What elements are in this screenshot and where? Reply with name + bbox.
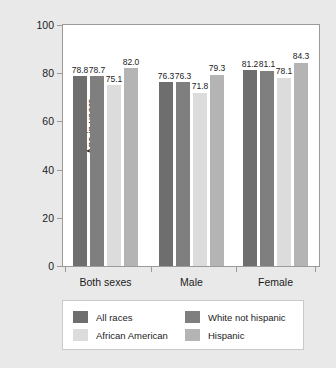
bar-slot: 78.7 (90, 25, 104, 266)
bar-slot: 78.1 (277, 25, 291, 266)
x-tick-mark (315, 266, 316, 272)
bar-value-label: 81.1 (259, 60, 276, 69)
bar-slot: 79.3 (210, 25, 224, 266)
x-tick-mark (65, 266, 66, 272)
bar-value-label: 76.3 (175, 72, 192, 81)
bar-slot: 82.0 (124, 25, 138, 266)
y-tick-label: 100 (36, 19, 54, 31)
bar-slot: 76.3 (159, 25, 173, 266)
bar-slot: 75.1 (107, 25, 121, 266)
legend-entry[interactable]: White not hispanic (185, 308, 297, 326)
legend-label: White not hispanic (208, 312, 286, 323)
x-category-label: Female (258, 276, 293, 288)
bar[interactable] (107, 85, 121, 266)
x-tick-mark (236, 266, 237, 272)
bar-value-label: 82.0 (123, 58, 140, 67)
bar[interactable] (210, 75, 224, 266)
bar[interactable] (176, 82, 190, 266)
bar[interactable] (193, 93, 207, 266)
legend-label: Hispanic (208, 330, 244, 341)
bars-layer: 78.878.775.182.076.376.371.879.381.281.1… (63, 25, 319, 266)
bar-slot: 78.8 (73, 25, 87, 266)
bar-value-label: 78.1 (276, 67, 293, 76)
legend-swatch (185, 311, 200, 323)
bar-value-label: 76.3 (158, 72, 175, 81)
bar-value-label: 78.7 (89, 66, 106, 75)
bar-value-label: 79.3 (209, 64, 226, 73)
legend-swatch (73, 329, 88, 341)
legend-entry[interactable]: African American (73, 326, 185, 344)
y-tick-label: 60 (42, 115, 54, 127)
plot-area: Age in years 020406080100 78.878.775.182… (62, 24, 320, 267)
bar-slot: 76.3 (176, 25, 190, 266)
legend-entry[interactable]: All races (73, 308, 185, 326)
bar[interactable] (159, 82, 173, 266)
bar-group: 76.376.371.879.3 (159, 25, 224, 266)
bar-slot: 81.1 (260, 25, 274, 266)
y-tick-label: 80 (42, 67, 54, 79)
bar[interactable] (243, 70, 257, 266)
bar[interactable] (73, 76, 87, 266)
bar[interactable] (294, 63, 308, 266)
legend-swatch (73, 311, 88, 323)
y-tick-label: 40 (42, 164, 54, 176)
bar-value-label: 75.1 (106, 75, 123, 84)
chart-figure: Age in years 020406080100 78.878.775.182… (0, 0, 336, 368)
x-category-label: Male (180, 276, 203, 288)
bar[interactable] (260, 71, 274, 266)
legend-swatch (185, 329, 200, 341)
bar-group: 78.878.775.182.0 (73, 25, 138, 266)
bar-slot: 71.8 (193, 25, 207, 266)
y-tick-label: 20 (42, 212, 54, 224)
bar-value-label: 78.8 (72, 66, 89, 75)
bar[interactable] (277, 78, 291, 266)
x-category-label: Both sexes (80, 276, 132, 288)
legend-label: All races (96, 312, 132, 323)
y-tick-label: 0 (48, 260, 54, 272)
bar-slot: 81.2 (243, 25, 257, 266)
bar-value-label: 71.8 (192, 82, 209, 91)
legend-entry[interactable]: Hispanic (185, 326, 297, 344)
bar-slot: 84.3 (294, 25, 308, 266)
chart-legend: All racesWhite not hispanicAfrican Ameri… (62, 300, 304, 350)
legend-grid: All racesWhite not hispanicAfrican Ameri… (73, 308, 297, 344)
bar[interactable] (124, 68, 138, 266)
bar[interactable] (90, 76, 104, 266)
bar-value-label: 84.3 (293, 52, 310, 61)
x-tick-mark (151, 266, 152, 272)
y-tick-mark (57, 266, 63, 267)
bar-value-label: 81.2 (242, 60, 259, 69)
bar-group: 81.281.178.184.3 (243, 25, 308, 266)
legend-label: African American (96, 330, 168, 341)
